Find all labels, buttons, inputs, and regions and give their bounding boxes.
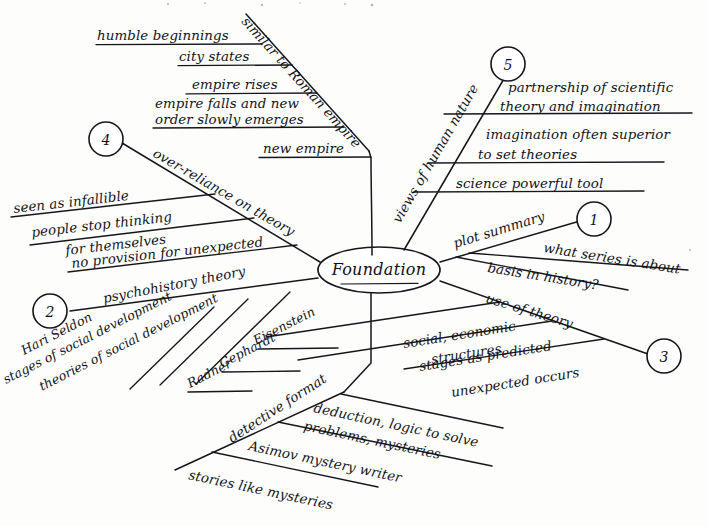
over-child-1: seen as infallible	[13, 188, 130, 216]
mind-map-diagram: Foundation similar to Roman empire humbl…	[0, 0, 708, 526]
center-node[interactable]: Foundation	[318, 247, 440, 293]
views-child-2-line1: imagination often superior	[486, 127, 671, 142]
roman-child-1: humble beginnings	[97, 28, 229, 43]
twig-roman-2	[178, 65, 292, 66]
branch-roman-empire-spine	[369, 151, 372, 255]
twig-roman-4	[153, 127, 344, 128]
views-child-3: science powerful tool	[456, 176, 603, 191]
marker-label-4: 4	[101, 132, 111, 148]
use-child-3: unexpected occurs	[450, 365, 580, 400]
twig-psy-underline-gephardt	[222, 371, 300, 372]
branch-psychohistory-label: psychohistory theory	[102, 264, 247, 306]
plot-child-2: basis in history?	[487, 260, 601, 292]
marker-label-1: 1	[590, 212, 599, 228]
twig-roman-5	[259, 157, 371, 158]
branch-over-reliance-label: over-reliance on theory	[151, 146, 298, 240]
twig-views-3	[414, 191, 644, 192]
roman-child-2: city states	[179, 49, 250, 64]
twig-views-2	[428, 162, 664, 163]
roman-child-3: empire rises	[192, 77, 278, 92]
mind-map-canvas: Foundation similar to Roman empire humbl…	[0, 0, 708, 526]
views-child-2-line2: to set theories	[478, 147, 577, 162]
twig-psy-underline-eisenstein	[258, 348, 338, 349]
branch-plot-summary[interactable]: 1 plot summary what series is about basi…	[440, 202, 688, 293]
marker-label-2: 2	[45, 304, 55, 320]
views-child-1-line2: theory and imagination	[500, 99, 661, 114]
roman-child-4-line1: empire falls and new	[155, 96, 300, 111]
roman-child-5: new empire	[263, 141, 344, 156]
twig-psy-underline-radner	[188, 391, 252, 392]
views-child-1-line1: partnership of scientific	[508, 80, 674, 95]
center-label: Foundation	[331, 260, 427, 279]
marker-label-5: 5	[504, 57, 513, 73]
center-underline	[341, 283, 418, 284]
roman-child-4-line2: order slowly emerges	[155, 112, 304, 127]
psy-child-radner: Radner	[184, 355, 235, 391]
branch-detective-spine	[344, 293, 371, 392]
branch-views-label: views of human nature	[390, 82, 482, 226]
twig-roman-1	[96, 44, 262, 45]
marker-label-3: 3	[660, 349, 669, 365]
branch-psychohistory[interactable]: 2 psychohistory theory Hari Seldon stage…	[1, 264, 338, 394]
branch-use-of-theory[interactable]: 3 use of theory social, economic structu…	[266, 281, 681, 400]
twig-roman-3	[186, 93, 317, 94]
det-child-3: stories like mysteries	[187, 467, 334, 512]
